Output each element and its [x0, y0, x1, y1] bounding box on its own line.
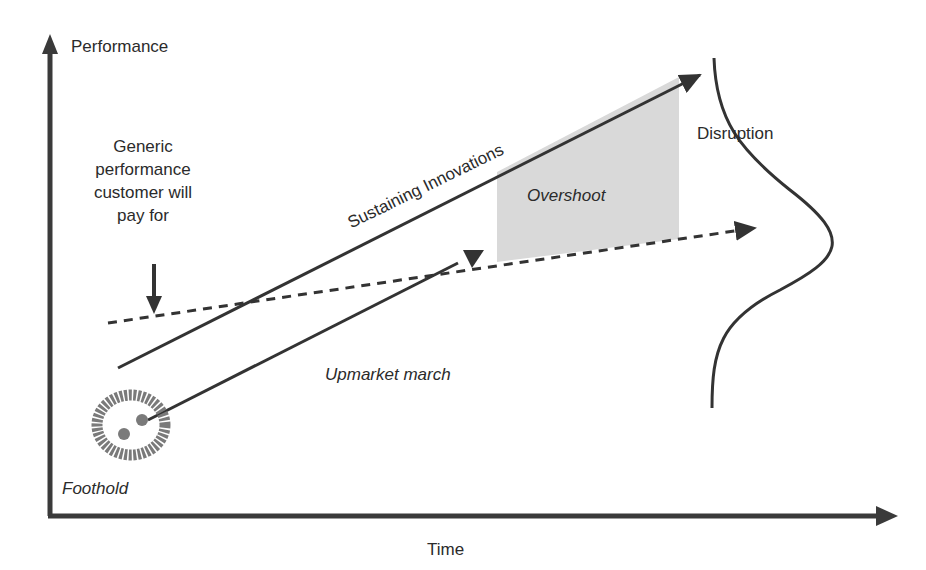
x-axis-arrowhead-icon: [876, 506, 898, 526]
x-axis-label: Time: [427, 541, 464, 558]
pointer-arrowhead-icon: [146, 296, 162, 314]
generic-line-2: performance: [68, 158, 218, 181]
generic-performance-label: Generic performance customer will pay fo…: [68, 135, 218, 227]
disruption-diagram: [0, 0, 926, 570]
overshoot-region: [497, 77, 679, 262]
generic-line-1: Generic: [68, 135, 218, 158]
foothold-label: Foothold: [62, 480, 128, 497]
y-axis-label: Performance: [71, 38, 168, 55]
generic-line-3: customer will: [68, 181, 218, 204]
overshoot-label: Overshoot: [527, 187, 605, 204]
upmarket-march-line: [148, 263, 458, 420]
upmarket-arrowhead-icon: [463, 250, 484, 268]
y-axis-arrowhead-icon: [42, 34, 58, 54]
generic-line-4: pay for: [68, 204, 218, 227]
disruption-label: Disruption: [697, 125, 774, 142]
foothold-blob: [97, 395, 165, 455]
upmarket-march-label: Upmarket march: [325, 366, 451, 383]
